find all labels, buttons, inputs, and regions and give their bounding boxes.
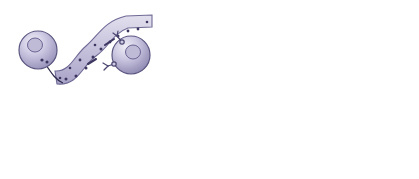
cell-signaling-diagram [0, 0, 419, 179]
background [0, 0, 419, 179]
figure-canvas: Endocrine signaling [0, 0, 419, 179]
nucleus [28, 38, 43, 52]
nucleus [126, 45, 141, 59]
